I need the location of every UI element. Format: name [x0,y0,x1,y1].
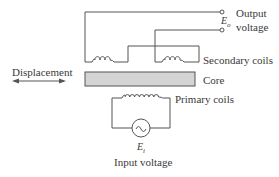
input-voltage-label: Input voltage [114,157,172,168]
displacement-label: Displacement [12,67,72,78]
arrow-head-left [12,79,19,84]
core [85,72,195,86]
output-wire-top [85,12,220,62]
left-secondary-right-lead [118,46,199,62]
right-secondary-coil [162,57,192,62]
arrow-head-right [59,79,66,84]
output-label-line1: Output [236,8,267,19]
left-secondary-coil [92,57,118,62]
output-symbol: Eo [221,16,231,29]
input-symbol: Ei [137,142,145,155]
output-terminal-top [220,10,224,14]
core-label: Core [203,75,224,86]
secondary-coils-label: Secondary coils [203,55,273,66]
primary-coils-label: Primary coils [175,94,234,105]
output-label-line2: voltage [236,22,268,33]
